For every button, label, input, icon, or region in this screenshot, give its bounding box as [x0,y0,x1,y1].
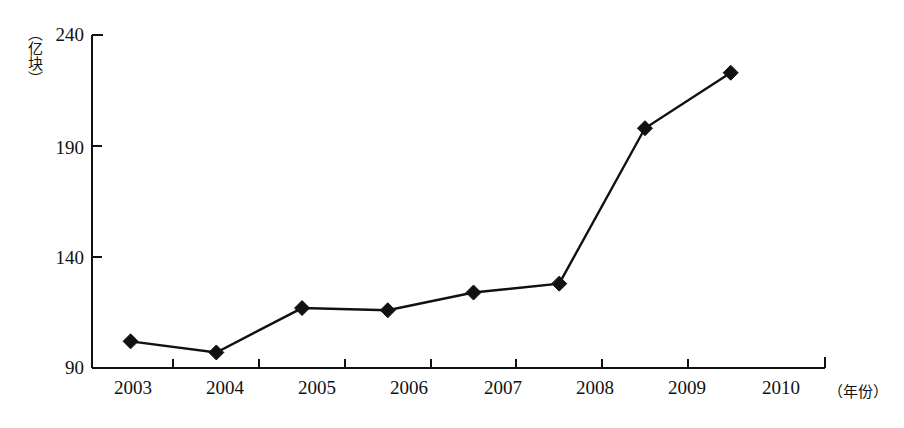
axis-layer [92,35,825,368]
data-point-marker-2006[interactable] [380,303,395,318]
data-point-marker-2008[interactable] [552,276,567,291]
data-point-marker-2005[interactable] [295,301,310,316]
plot-area [0,0,904,428]
series-line [131,73,731,353]
data-point-marker-2010[interactable] [723,65,738,80]
data-point-marker-2004[interactable] [209,345,224,360]
data-point-marker-2009[interactable] [637,121,652,136]
data-point-marker-2003[interactable] [123,334,138,349]
line-chart: （亿块） 240 190 140 90 2003 2004 2005 2006 … [0,0,904,428]
data-point-marker-2007[interactable] [466,285,481,300]
data-series-layer [123,65,738,360]
